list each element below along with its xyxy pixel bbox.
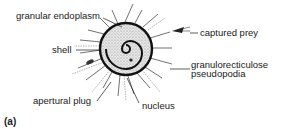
nucleus-dot xyxy=(129,58,132,61)
label-granuloreticulose-line2: pseudopodia xyxy=(191,69,245,79)
label-granular-endoplasm: granular endoplasm xyxy=(16,11,100,21)
label-apertural-plug: apertural plug xyxy=(33,96,91,106)
shell-spiral xyxy=(100,23,152,75)
label-nucleus: nucleus xyxy=(142,101,175,111)
captured-prey-icon xyxy=(172,27,190,33)
label-shell: shell xyxy=(52,45,72,55)
label-captured-prey: captured prey xyxy=(200,28,258,38)
panel-label: (a) xyxy=(4,116,16,127)
